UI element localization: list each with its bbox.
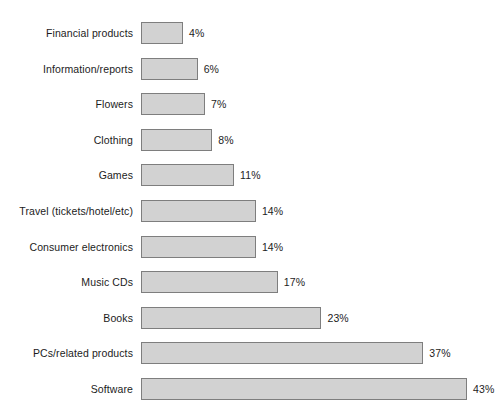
bar xyxy=(141,200,256,222)
bar-row: Information/reports6% xyxy=(0,58,496,80)
bar-track xyxy=(141,200,256,222)
value-label: 4% xyxy=(189,22,204,44)
bar xyxy=(141,93,205,115)
category-label: Software xyxy=(0,378,133,400)
category-label: Information/reports xyxy=(0,58,133,80)
category-label: Consumer electronics xyxy=(0,236,133,258)
bar xyxy=(141,22,183,44)
value-label: 11% xyxy=(240,164,261,186)
category-label: Music CDs xyxy=(0,271,133,293)
bar xyxy=(141,164,234,186)
bar xyxy=(141,342,423,364)
bar xyxy=(141,271,278,293)
bar-row: Games11% xyxy=(0,164,496,186)
category-label: Games xyxy=(0,164,133,186)
bar-track xyxy=(141,271,278,293)
value-label: 23% xyxy=(327,307,348,329)
category-label: Financial products xyxy=(0,22,133,44)
bar-row: PCs/related products37% xyxy=(0,342,496,364)
bar-row: Software43% xyxy=(0,378,496,400)
bar-row: Financial products4% xyxy=(0,22,496,44)
bar-track xyxy=(141,93,205,115)
value-label: 43% xyxy=(473,378,494,400)
category-label: Books xyxy=(0,307,133,329)
value-label: 14% xyxy=(262,236,283,258)
value-label: 37% xyxy=(429,342,450,364)
bar-track xyxy=(141,307,321,329)
bar-row: Clothing8% xyxy=(0,129,496,151)
value-label: 14% xyxy=(262,200,283,222)
bar-row: Music CDs17% xyxy=(0,271,496,293)
bar-track xyxy=(141,378,467,400)
bar xyxy=(141,307,321,329)
bar-track xyxy=(141,342,423,364)
value-label: 8% xyxy=(218,129,233,151)
bar-track xyxy=(141,22,183,44)
bar-track xyxy=(141,58,198,80)
bar xyxy=(141,129,212,151)
bar xyxy=(141,378,467,400)
bar-chart: Financial products4%Information/reports6… xyxy=(0,0,496,417)
value-label: 6% xyxy=(204,58,219,80)
category-label: Flowers xyxy=(0,93,133,115)
bar-track xyxy=(141,236,256,258)
bar-track xyxy=(141,164,234,186)
bar-row: Travel (tickets/hotel/etc)14% xyxy=(0,200,496,222)
bar-row: Books23% xyxy=(0,307,496,329)
bar-row: Consumer electronics14% xyxy=(0,236,496,258)
bar-track xyxy=(141,129,212,151)
bar xyxy=(141,236,256,258)
value-label: 7% xyxy=(211,93,226,115)
bar-row: Flowers7% xyxy=(0,93,496,115)
bar xyxy=(141,58,198,80)
category-label: PCs/related products xyxy=(0,342,133,364)
value-label: 17% xyxy=(284,271,305,293)
category-label: Travel (tickets/hotel/etc) xyxy=(0,200,133,222)
category-label: Clothing xyxy=(0,129,133,151)
